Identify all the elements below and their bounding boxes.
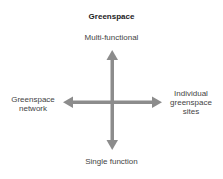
horizontal-axis-line <box>71 101 154 105</box>
arrow-down-icon <box>107 140 119 150</box>
arrow-right-icon <box>152 97 162 109</box>
axes-arrows <box>0 0 223 179</box>
arrow-left-icon <box>63 97 73 109</box>
arrow-up-icon <box>107 50 119 60</box>
vertical-axis-line <box>111 58 115 142</box>
